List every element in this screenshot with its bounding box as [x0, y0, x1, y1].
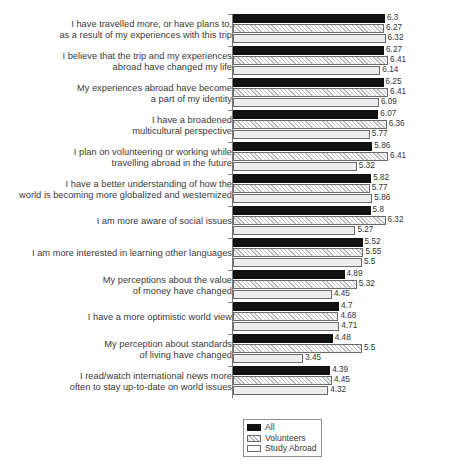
chart-legend: AllVolunteersStudy Abroad [243, 419, 322, 457]
bar-value-label: 5.77 [372, 183, 388, 193]
category-label: I am more aware of social issues [4, 216, 232, 227]
bar-group: I believe that the trip and my experienc… [0, 46, 450, 78]
plot-area: I have travelled more, or have plans to,… [0, 14, 450, 398]
bar-volunteers [233, 216, 386, 225]
bar-volunteers [233, 88, 388, 97]
bar-study-abroad [233, 130, 370, 139]
legend-swatch-icon [247, 424, 261, 431]
category-label: I have a broadened multicultural perspec… [4, 115, 232, 138]
horizontal-grouped-bar-chart: I have travelled more, or have plans to,… [0, 0, 450, 464]
legend-rows: AllVolunteersStudy Abroad [247, 423, 317, 454]
bar-value-label: 5.5 [364, 257, 375, 267]
bar-group: My experiences abroad have become a part… [0, 78, 450, 110]
bar-group: I have travelled more, or have plans to,… [0, 14, 450, 46]
bar-study-abroad [233, 258, 362, 267]
bar-study-abroad [233, 322, 339, 331]
bar-value-label: 4.68 [340, 311, 356, 321]
legend-swatch-icon [247, 435, 261, 442]
legend-label: Study Abroad [265, 444, 317, 453]
bar-all [233, 270, 345, 279]
bar-volunteers [233, 56, 388, 65]
bar-value-label: 6.32 [388, 215, 404, 225]
bar-value-label: 6.36 [389, 119, 405, 129]
legend-item[interactable]: Volunteers [247, 433, 317, 443]
bar-all [233, 302, 339, 311]
legend-item[interactable]: Study Abroad [247, 444, 317, 454]
bar-study-abroad [233, 66, 380, 75]
bar-value-label: 6.14 [382, 65, 398, 75]
bar-value-label: 5.8 [373, 205, 384, 215]
bar-study-abroad [233, 354, 303, 363]
bar-volunteers [233, 120, 387, 129]
bar-study-abroad [233, 386, 328, 395]
bar-value-label: 5.27 [357, 225, 373, 235]
bar-volunteers [233, 152, 388, 161]
bar-volunteers [233, 280, 357, 289]
bar-value-label: 4.39 [332, 365, 348, 375]
bar-group: I have a more optimistic world view4.74.… [0, 302, 450, 334]
bar-value-label: 5.86 [374, 193, 390, 203]
bar-value-label: 4.45 [334, 375, 350, 385]
bar-all [233, 174, 371, 183]
bar-volunteers [233, 312, 338, 321]
category-label: My perception about standards of living … [4, 339, 232, 362]
legend-label: Volunteers [265, 434, 306, 443]
bar-value-label: 5.82 [373, 173, 389, 183]
bar-value-label: 6.41 [390, 87, 406, 97]
bar-all [233, 110, 378, 119]
bar-value-label: 5.77 [372, 129, 388, 139]
category-label: I have travelled more, or have plans to,… [4, 19, 232, 42]
bar-value-label: 6.41 [390, 151, 406, 161]
bar-all [233, 334, 333, 343]
bar-all [233, 142, 372, 151]
bar-volunteers [233, 24, 384, 33]
bar-all [233, 366, 330, 375]
bar-value-label: 4.32 [330, 385, 346, 395]
bar-group: I have a better understanding of how the… [0, 174, 450, 206]
bar-value-label: 3.45 [305, 353, 321, 363]
bar-group: I have a broadened multicultural perspec… [0, 110, 450, 142]
legend-item[interactable]: All [247, 423, 317, 433]
category-label: My experiences abroad have become a part… [4, 83, 232, 106]
bar-study-abroad [233, 226, 355, 235]
bar-all [233, 238, 363, 247]
bar-value-label: 6.41 [390, 55, 406, 65]
bar-study-abroad [233, 194, 372, 203]
bar-value-label: 4.45 [334, 289, 350, 299]
category-label: I plan on volunteering or working while … [4, 147, 232, 170]
bar-all [233, 14, 385, 23]
bar-group: I plan on volunteering or working while … [0, 142, 450, 174]
bar-volunteers [233, 344, 362, 353]
bar-volunteers [233, 184, 370, 193]
bar-study-abroad [233, 34, 386, 43]
bar-volunteers [233, 376, 332, 385]
bar-study-abroad [233, 162, 357, 171]
bar-value-label: 6.3 [387, 13, 398, 23]
bar-all [233, 78, 384, 87]
bar-group: My perceptions about the value of money … [0, 270, 450, 302]
bar-value-label: 5.32 [359, 279, 375, 289]
category-label: My perceptions about the value of money … [4, 275, 232, 298]
bar-value-label: 4.71 [341, 321, 357, 331]
bar-value-label: 5.86 [374, 141, 390, 151]
bar-value-label: 4.89 [347, 269, 363, 279]
category-label: I am more interested in learning other l… [4, 248, 232, 259]
bar-all [233, 46, 384, 55]
bar-value-label: 6.09 [381, 97, 397, 107]
category-label: I have a better understanding of how the… [4, 179, 232, 202]
bar-value-label: 5.52 [365, 237, 381, 247]
bar-study-abroad [233, 290, 332, 299]
bar-group: I read/watch international news more oft… [0, 366, 450, 398]
bar-volunteers [233, 248, 363, 257]
category-label: I have a more optimistic world view [4, 312, 232, 323]
bar-value-label: 5.5 [364, 343, 375, 353]
bar-value-label: 6.27 [386, 23, 402, 33]
legend-label: All [265, 423, 275, 432]
bar-study-abroad [233, 98, 379, 107]
bar-value-label: 4.48 [335, 333, 351, 343]
bar-value-label: 6.27 [386, 45, 402, 55]
bar-group: I am more aware of social issues5.86.325… [0, 206, 450, 238]
bar-value-label: 6.07 [380, 109, 396, 119]
bar-all [233, 206, 371, 215]
category-label: I read/watch international news more oft… [4, 371, 232, 394]
